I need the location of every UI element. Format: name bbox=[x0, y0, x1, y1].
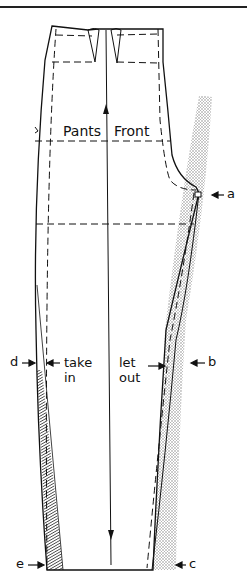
arrow-c bbox=[176, 562, 182, 568]
let-out-region bbox=[152, 96, 212, 570]
arrow-d bbox=[29, 360, 35, 366]
grainline-arrow-down bbox=[108, 530, 114, 540]
label-front: Front bbox=[114, 124, 149, 138]
dart-right bbox=[111, 29, 121, 64]
label-take: take bbox=[64, 356, 92, 370]
arrow-e bbox=[38, 562, 44, 568]
point-label-e: e bbox=[16, 557, 24, 571]
arrow-take-in bbox=[47, 360, 53, 366]
point-label-a: a bbox=[227, 187, 235, 201]
arrow-a bbox=[212, 192, 218, 198]
label-pants: Pants bbox=[63, 124, 101, 138]
grainline-arrow-up bbox=[103, 104, 109, 114]
hip-notch bbox=[35, 127, 38, 133]
arrow-b bbox=[191, 360, 197, 366]
label-in: in bbox=[64, 371, 76, 385]
label-let: let bbox=[119, 356, 136, 370]
crotch-point bbox=[195, 192, 201, 197]
dart-left bbox=[88, 29, 99, 63]
label-out: out bbox=[119, 371, 140, 385]
pants-front-pattern bbox=[0, 0, 247, 588]
point-label-c: c bbox=[189, 557, 196, 571]
point-label-d: d bbox=[10, 355, 18, 369]
point-label-b: b bbox=[208, 355, 216, 369]
